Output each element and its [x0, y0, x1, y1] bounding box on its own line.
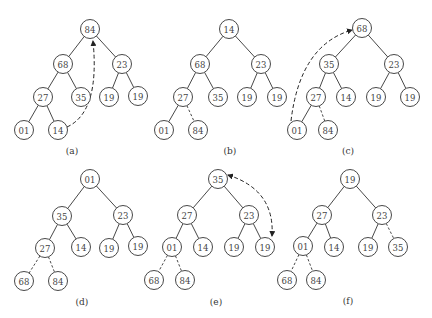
- tree-edge: [48, 72, 58, 89]
- node-value: 68: [19, 277, 30, 287]
- tree-edge: [398, 73, 406, 89]
- heap-node: 35: [209, 170, 228, 189]
- node-value: 01: [292, 126, 303, 136]
- dashed-edge: [319, 106, 325, 121]
- tree-edge: [302, 105, 312, 122]
- tree-edge: [333, 72, 341, 88]
- node-value: 84: [180, 276, 191, 286]
- heap-node: 35: [389, 238, 408, 257]
- node-value: 01: [85, 175, 96, 185]
- heap-node: 84: [189, 121, 208, 140]
- tree-f: 192723011419356884(f): [278, 170, 408, 307]
- node-value: 14: [53, 126, 64, 136]
- node-value: 19: [405, 93, 416, 103]
- heap-node: 68: [353, 19, 372, 38]
- heap-node: 19: [268, 88, 287, 107]
- heap-node: 19: [100, 88, 119, 107]
- trees-layer: 846823273519190114(a)146823273519190184(…: [15, 19, 420, 308]
- tree-edge: [69, 37, 84, 57]
- heap-node: 27: [36, 239, 55, 258]
- node-value: 68: [282, 276, 293, 286]
- node-value: 68: [149, 276, 160, 286]
- tree-edge: [49, 224, 57, 239]
- node-value: 27: [40, 244, 51, 254]
- tree-d: 013523271419196884(d): [15, 170, 148, 308]
- tree-edge: [319, 73, 325, 88]
- node-value: 19: [133, 242, 144, 252]
- heap-node: 23: [385, 55, 404, 74]
- dashed-edge: [386, 223, 394, 238]
- node-value: 35: [324, 60, 335, 70]
- heap-node: 23: [240, 206, 259, 225]
- tree-edge: [356, 186, 375, 208]
- tree-edge: [381, 72, 390, 88]
- tree-edge: [335, 35, 355, 57]
- tree-a: 846823273519190114(a): [15, 20, 148, 157]
- heap-node: 19: [100, 239, 119, 258]
- heap-node: 19: [341, 170, 360, 189]
- tree-edge: [47, 106, 54, 122]
- heap-node: 35: [53, 207, 72, 226]
- heap-node: 19: [359, 238, 378, 257]
- heap-node: 35: [209, 88, 228, 107]
- node-value: 68: [195, 60, 206, 70]
- heap-node: 14: [337, 88, 356, 107]
- node-value: 14: [198, 243, 209, 253]
- heap-node: 23: [373, 206, 392, 225]
- heap-node: 01: [15, 121, 34, 140]
- tree-edge: [205, 72, 214, 88]
- tree-edge: [251, 73, 258, 89]
- heap-node: 84: [319, 121, 338, 140]
- node-value: 27: [317, 211, 328, 221]
- node-value: 01: [167, 243, 178, 253]
- node-value: 84: [53, 277, 64, 287]
- heap-node: 14: [220, 20, 239, 39]
- heap-node: 14: [49, 121, 68, 140]
- heap-sort-diagram: 846823273519190114(a)146823273519190184(…: [0, 0, 432, 318]
- tree-edge: [372, 224, 378, 239]
- node-value: 35: [76, 93, 87, 103]
- heap-node: 01: [288, 121, 307, 140]
- heap-node: 23: [252, 55, 271, 74]
- tree-edge: [308, 223, 317, 238]
- node-value: 35: [393, 243, 404, 253]
- tree-edge: [96, 36, 115, 57]
- heap-node: 19: [367, 88, 386, 107]
- heap-node: 01: [163, 238, 182, 257]
- heap-node: 14: [72, 238, 91, 257]
- node-value: 19: [242, 93, 253, 103]
- tree-edge: [112, 73, 118, 88]
- node-value: 19: [371, 93, 382, 103]
- tree-edge: [67, 224, 76, 239]
- node-value: 23: [389, 60, 400, 70]
- tree-edge: [238, 224, 245, 239]
- node-value: 14: [329, 243, 340, 253]
- node-value: 27: [182, 211, 193, 221]
- dashed-edge: [48, 257, 54, 272]
- node-value: 35: [213, 175, 224, 185]
- subfigure-caption: (e): [210, 297, 222, 307]
- node-value: 35: [57, 212, 68, 222]
- tree-b: 146823273519190184(b): [155, 20, 287, 157]
- node-value: 23: [117, 60, 128, 70]
- tree-edge: [126, 72, 134, 87]
- heap-node: 19: [129, 237, 148, 256]
- tree-edge: [127, 224, 134, 238]
- heap-node: 68: [145, 271, 164, 290]
- node-value: 14: [341, 93, 352, 103]
- node-value: 19: [133, 92, 144, 102]
- heap-node: 35: [320, 55, 339, 74]
- tree-edge: [113, 224, 120, 240]
- heap-node: 27: [307, 88, 326, 107]
- subfigure-caption: (f): [343, 296, 353, 306]
- tree-edge: [169, 105, 179, 122]
- node-value: 14: [76, 243, 87, 253]
- node-value: 19: [229, 243, 240, 253]
- heap-node: 01: [294, 237, 313, 256]
- node-value: 19: [104, 244, 115, 254]
- node-value: 19: [345, 175, 356, 185]
- node-value: 68: [357, 24, 368, 34]
- node-value: 19: [272, 93, 283, 103]
- node-value: 84: [193, 126, 204, 136]
- heap-node: 84: [81, 20, 100, 39]
